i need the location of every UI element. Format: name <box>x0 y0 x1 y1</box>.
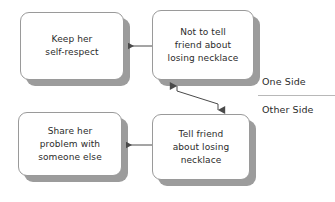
side-divider-line <box>258 95 335 96</box>
label-one-side: One Side <box>262 76 306 87</box>
label-other-side: Other Side <box>262 104 314 115</box>
connector-layer <box>0 0 335 202</box>
decision-diagram: Keep her self-respect Not to tell friend… <box>0 0 335 202</box>
connector-between-sides <box>177 86 218 110</box>
